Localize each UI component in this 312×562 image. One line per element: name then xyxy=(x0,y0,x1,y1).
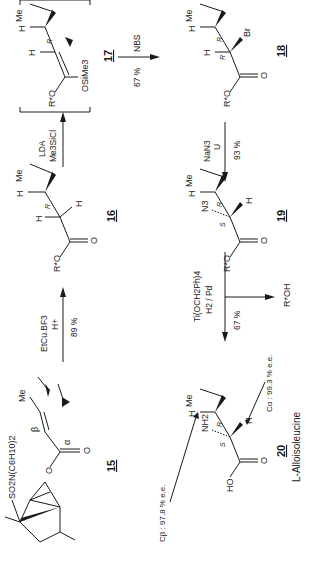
h-label: H xyxy=(74,201,84,208)
stereo-r: R xyxy=(219,55,226,60)
arrow-15-to-16: EtCu.BF3 H+ 89 % xyxy=(39,287,79,362)
ho-label: HO xyxy=(225,479,235,493)
ro-label: R*O xyxy=(47,90,57,107)
arrow-19-to-20: Ti(OCH2Ph)4 H2 / Pd 67 % R*OH xyxy=(192,252,292,342)
h-label: H xyxy=(17,26,27,33)
ro-label: R*O xyxy=(52,255,62,272)
yield-93: 93 % xyxy=(232,140,242,160)
compound-19: R*O O S H N3 R Me H 19 xyxy=(184,169,287,272)
carbonyl-o: O xyxy=(259,457,269,464)
h-label: H xyxy=(202,50,212,57)
stereo-r: R xyxy=(216,422,223,427)
br-label: Br xyxy=(242,28,252,37)
reagent-nan3: NaN3 xyxy=(202,140,212,162)
compound-label-16: 16 xyxy=(105,210,117,222)
attack-arrow-icon xyxy=(45,384,50,397)
h-label: H xyxy=(187,191,197,198)
alpha-label: α xyxy=(62,440,72,445)
reaction-scheme: SO2N(C6H10)2 O O α β Me 15 EtCu.BF3 H+ 8… xyxy=(0,0,312,562)
bracket-left xyxy=(20,107,90,112)
compound-18: R*O O R H Br R Me H 18 xyxy=(184,4,287,107)
reagent-ti: Ti(OCH2Ph)4 xyxy=(192,271,202,322)
compound-16: R*O O H H R Me H 16 xyxy=(14,164,117,272)
reagent-h: H+ xyxy=(50,319,60,330)
beta-label: β xyxy=(30,427,40,432)
methyl-label: Me xyxy=(17,389,27,402)
carbonyl-o: O xyxy=(259,237,269,244)
stereo-r: R xyxy=(44,204,51,209)
compound-label-15: 15 xyxy=(105,460,117,472)
h-label: H xyxy=(244,198,254,205)
compound-name: L-Alloisoleucine xyxy=(291,412,302,482)
n3-label: N3 xyxy=(200,200,210,212)
ester-o: O xyxy=(44,467,54,474)
compound-label-18: 18 xyxy=(275,45,287,57)
yield-67: 67 % xyxy=(232,310,242,330)
compound-label-17: 17 xyxy=(102,50,114,62)
h-label: H xyxy=(34,216,44,223)
h-label: H xyxy=(15,191,25,198)
yield-89: 89 % xyxy=(69,317,79,337)
scheme-canvas: SO2N(C6H10)2 O O α β Me 15 EtCu.BF3 H+ 8… xyxy=(0,0,312,562)
methyl-label: Me xyxy=(14,169,24,182)
compound-label-20: 20 xyxy=(275,445,287,457)
reagent-tmscl: Me3SiCl xyxy=(48,130,58,162)
cbeta-ee: Cβ : 97.8 % e.e. xyxy=(158,484,167,542)
compound-15: SO2N(C6H10)2 O O α β Me 15 xyxy=(5,377,117,542)
methyl-label: Me xyxy=(184,394,194,407)
carbonyl-o: O xyxy=(259,72,269,79)
calpha-ee: Cα : 99.3 % e.e. xyxy=(265,354,274,412)
ro-label: R*O xyxy=(222,255,232,272)
reagent-lda: LDA xyxy=(37,140,47,157)
stereo-r: R xyxy=(216,202,223,207)
stereo-r: R xyxy=(46,39,53,44)
stereo-s: S xyxy=(219,222,226,227)
reagent-nbs: NBS xyxy=(132,34,142,52)
carbonyl-o: O xyxy=(82,447,92,454)
yield-67: 67 % xyxy=(132,67,142,87)
otms-label: OSiMe3 xyxy=(80,59,90,92)
substituent-text: SO2N(C6H10)2 xyxy=(7,435,17,499)
methyl-label: Me xyxy=(14,9,24,22)
reagent-etcu: EtCu.BF3 xyxy=(39,315,49,352)
arrow-17-to-18: NBS 67 % xyxy=(118,34,160,87)
stereo-r: R xyxy=(216,37,223,42)
attack-arrow-icon xyxy=(65,37,73,47)
arrow-18-to-19: NaN3 U 93 % xyxy=(202,122,242,182)
methyl-label: Me xyxy=(184,174,194,187)
reagent-u: U xyxy=(212,144,222,150)
ro-label: R*O xyxy=(222,90,232,107)
compound-17: R*O OSiMe3 H R Me H 17 xyxy=(14,0,114,112)
compound-label-19: 19 xyxy=(275,210,287,222)
methyl-label: Me xyxy=(184,9,194,22)
reagent-h2pd: H2 / Pd xyxy=(204,285,214,314)
stereo-s: S xyxy=(219,442,226,447)
h-label: H xyxy=(187,26,197,33)
arrow-16-to-17: LDA Me3SiCl xyxy=(37,112,66,167)
compound-20: HO O S H NH2 R Me H 20 L-Alloisoleucine … xyxy=(158,354,302,542)
h-label: H xyxy=(27,50,37,57)
byproduct-rOH: R*OH xyxy=(282,283,292,307)
nh2-label: NH2 xyxy=(200,414,210,432)
carbonyl-o: O xyxy=(89,237,99,244)
